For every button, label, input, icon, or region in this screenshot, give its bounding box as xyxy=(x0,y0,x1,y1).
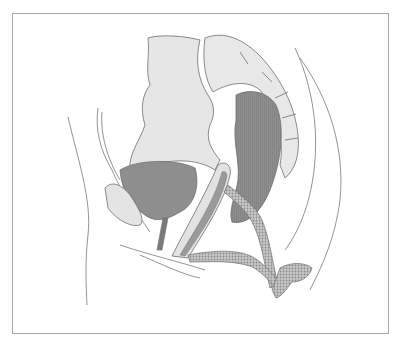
urethra xyxy=(157,218,168,250)
mesh-knot xyxy=(272,264,312,299)
pelvis-illustration xyxy=(0,0,401,347)
